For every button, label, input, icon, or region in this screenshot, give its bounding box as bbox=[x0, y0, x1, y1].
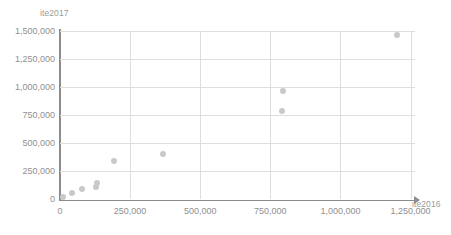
gridline-horizontal bbox=[60, 59, 415, 60]
data-point bbox=[79, 186, 85, 192]
data-point bbox=[111, 158, 117, 164]
data-point bbox=[94, 180, 100, 186]
y-axis-tick-label: 1,000,000 bbox=[0, 82, 55, 92]
data-point bbox=[160, 151, 166, 157]
x-axis-line bbox=[59, 200, 415, 201]
data-point bbox=[279, 108, 285, 114]
x-axis-tick-label: 500,000 bbox=[184, 206, 217, 216]
y-axis-tick-label: 0 bbox=[0, 194, 55, 204]
data-point bbox=[394, 32, 400, 38]
gridline-horizontal bbox=[60, 143, 415, 144]
x-axis-tick-label: 1,000,000 bbox=[320, 206, 360, 216]
y-axis-tick-label: 250,000 bbox=[0, 166, 55, 176]
x-axis-tick-label: 250,000 bbox=[114, 206, 147, 216]
gridline-horizontal bbox=[60, 115, 415, 116]
y-axis-title: ite2017 bbox=[40, 8, 69, 18]
y-axis-tick-label: 500,000 bbox=[0, 138, 55, 148]
plot-area bbox=[60, 31, 415, 199]
y-axis-tick-label: 750,000 bbox=[0, 110, 55, 120]
y-axis-tick-label: 1,500,000 bbox=[0, 26, 55, 36]
x-axis-tick-label: 750,000 bbox=[254, 206, 287, 216]
gridline-vertical bbox=[340, 31, 341, 199]
gridline-horizontal bbox=[60, 31, 415, 32]
data-point bbox=[280, 88, 286, 94]
gridline-vertical bbox=[411, 31, 412, 199]
gridline-vertical bbox=[270, 31, 271, 199]
scatter-chart: ite2017 ite2016 0250,000500,000750,0001,… bbox=[0, 0, 451, 235]
data-point bbox=[69, 190, 75, 196]
data-point bbox=[60, 194, 66, 200]
gridline-vertical bbox=[200, 31, 201, 199]
gridline-vertical bbox=[130, 31, 131, 199]
y-axis-tick-label: 1,250,000 bbox=[0, 54, 55, 64]
gridline-horizontal bbox=[60, 171, 415, 172]
gridline-horizontal bbox=[60, 87, 415, 88]
x-axis-tick-label: 0 bbox=[57, 206, 62, 216]
x-axis-tick-label: 1,250,000 bbox=[390, 206, 430, 216]
